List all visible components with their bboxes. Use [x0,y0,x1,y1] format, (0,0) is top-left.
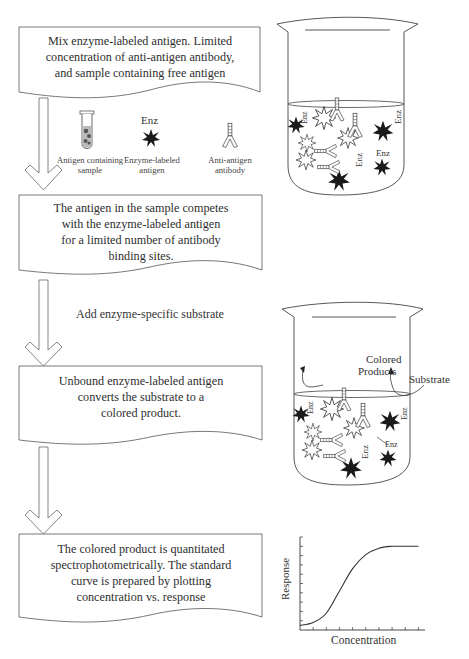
text-line: converts the substrate to a [22,389,260,405]
y-axis-label: Response [279,558,291,600]
x-axis-label: Concentration [331,634,396,646]
enz-tag: Enz [385,440,398,449]
text-line: concentration of anti-antigen antibody, [22,49,258,65]
text-line: Anti-antigen [200,155,260,165]
text-line: concentration vs. response [22,589,260,605]
enz-tag: Enz [306,401,315,414]
text-line: for a limited number of antibody [22,232,260,248]
colored-products-label: Colored [366,353,402,365]
text-line: Antigen containing [52,155,128,165]
text-line: spectrophotometrically. The standard [22,557,260,573]
text-line: Unbound enzyme-labeled antigen [22,373,260,389]
enz-legend-tag: Enz [141,114,158,126]
down-arrow-2 [25,280,62,366]
down-arrow-3 [25,447,62,534]
beaker-2: Enz Enz Enz Enz Colored Products Substra… [282,302,450,485]
text-line: antibody [200,165,260,175]
text-line: and sample containing free antigen [22,65,258,81]
step-4-text: The colored product is quantitated spect… [22,541,260,605]
colored-products-label: Products [358,365,397,377]
text-line: curve is prepared by plotting [22,573,260,589]
standard-curve-chart: Response Concentration [279,537,425,646]
enz-tag: Enz [360,445,370,459]
enz-tag: Enz [354,153,364,167]
down-arrow-1 [25,98,62,190]
antibody-label: Anti-antigen antibody [200,155,260,175]
step-1-text: Mix enzyme-labeled antigen. Limited conc… [22,33,258,81]
enz-tag: Enz [376,148,390,158]
enzyme-labeled-antigen-label: Enzyme-labeled antigen [118,155,186,175]
text-line: Mix enzyme-labeled antigen. Limited [22,33,258,49]
beaker-1: Enz Enz Enz Enz [277,17,418,195]
sample-label: Antigen containing sample [52,155,128,175]
step-3-text: Unbound enzyme-labeled antigen converts … [22,373,260,421]
text-line: Enzyme-labeled [118,155,186,165]
enz-tag: Enz [393,110,403,124]
text-line: sample [52,165,128,175]
text-line: binding sites. [22,248,260,264]
substrate-label: Substrate [409,373,450,385]
add-substrate-note: Add enzyme-specific substrate [76,307,224,322]
standard-curve-line [300,546,418,625]
text-line: with the enzyme-labeled antigen [22,216,260,232]
text-line: antigen [118,165,186,175]
antibody-icon [223,123,238,147]
text-line: The colored product is quantitated [22,541,260,557]
enz-tag: Enz [300,111,309,124]
text-line: The antigen in the sample competes [22,200,260,216]
text-line: colored product. [22,405,260,421]
enzyme-labeled-antigen-icon [142,129,160,147]
step-2-text: The antigen in the sample competes with … [22,200,260,264]
test-tube-icon [80,111,94,149]
enz-tag: Enz [400,407,409,420]
